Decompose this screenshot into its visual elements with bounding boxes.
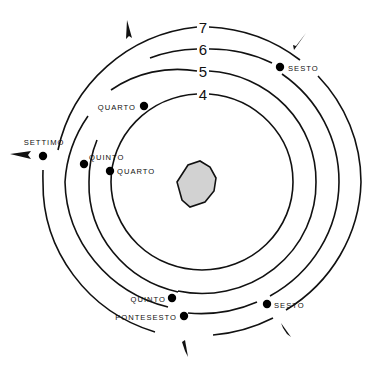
stop-quarto: QUARTO bbox=[98, 102, 148, 112]
stop-quinto: QUINTO bbox=[131, 294, 177, 304]
arrow-west-icon bbox=[10, 151, 31, 159]
arrow-north-west-icon bbox=[126, 20, 132, 39]
stop-dot-icon bbox=[80, 160, 88, 168]
stop-sesto: SESTO bbox=[263, 300, 305, 310]
stop-label: QUINTO bbox=[131, 295, 166, 304]
stop-dot-icon bbox=[276, 63, 284, 71]
ring-5-number: 5 bbox=[199, 63, 207, 80]
stop-quarto: QUARTO bbox=[106, 167, 155, 176]
central-core-shape bbox=[177, 161, 216, 207]
stop-label: SETTIMO bbox=[24, 138, 65, 147]
ring-route-diagram: 4567 SESTOQUARTOSETTIMOQUINTOQUARTOQUINT… bbox=[0, 0, 368, 378]
stop-dot-icon bbox=[140, 102, 148, 110]
stop-dot-icon bbox=[168, 294, 176, 302]
stop-label: QUINTO bbox=[89, 153, 124, 162]
stops-group: SESTOQUARTOSETTIMOQUINTOQUARTOQUINTOPONT… bbox=[24, 63, 319, 322]
stop-label: PONTESESTO bbox=[115, 313, 177, 322]
ring-4-number: 4 bbox=[199, 86, 207, 103]
arrow-north-east-icon bbox=[293, 33, 306, 50]
arrow-south-east-icon bbox=[281, 323, 291, 337]
ring-7-number: 7 bbox=[199, 19, 207, 36]
stop-dot-icon bbox=[106, 167, 114, 175]
stop-pontesesto: PONTESESTO bbox=[115, 312, 188, 322]
stop-label: QUARTO bbox=[98, 103, 136, 112]
stop-dot-icon bbox=[39, 152, 47, 160]
stop-dot-icon bbox=[263, 300, 271, 308]
stop-sesto: SESTO bbox=[276, 63, 319, 73]
stop-label: QUARTO bbox=[117, 167, 155, 176]
arrow-south-icon bbox=[182, 340, 188, 357]
ring-6-number: 6 bbox=[199, 41, 207, 58]
stop-dot-icon bbox=[180, 312, 188, 320]
stop-label: SESTO bbox=[288, 64, 319, 73]
stop-label: SESTO bbox=[274, 301, 305, 310]
